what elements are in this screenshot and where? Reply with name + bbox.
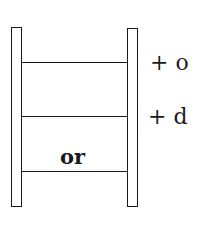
left-rail: [11, 27, 22, 207]
rung-3-word: or: [60, 146, 85, 167]
rung-3: [22, 171, 127, 172]
rung-2: [22, 116, 127, 117]
rung-1: [22, 62, 127, 63]
rung-2-operation-label: + d: [148, 106, 188, 128]
right-rail: [127, 28, 138, 207]
rung-1-operation-label: + o: [150, 52, 189, 74]
